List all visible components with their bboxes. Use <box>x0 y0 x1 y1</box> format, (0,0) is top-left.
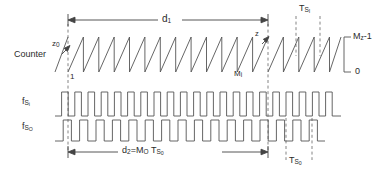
fso-row-label: fSO <box>22 122 33 133</box>
dimension-d2 <box>68 146 268 158</box>
label-z0: z0 <box>52 40 60 49</box>
label-tsi: TSI <box>299 4 310 15</box>
label-one: 1 <box>70 73 74 81</box>
label-d2-expression: d2=MO TS0 <box>122 146 164 157</box>
counter-row-label: Counter <box>14 50 46 59</box>
label-d1: d1 <box>162 14 171 25</box>
counter-sawtooth-trace <box>55 37 341 72</box>
fsi-row-label: fSi <box>22 97 30 108</box>
label-z: z <box>255 30 259 38</box>
fsi-square-trace <box>55 92 341 116</box>
label-mi: Mi <box>234 70 242 79</box>
fso-square-trace <box>55 120 325 141</box>
diagram-canvas <box>0 0 373 174</box>
label-tso: TS0 <box>289 156 302 167</box>
label-mz-minus-1: Mz-1 <box>353 32 372 42</box>
counter-axis-bracket <box>344 37 351 72</box>
label-zero: 0 <box>355 67 360 76</box>
timing-diagram-figure: Counter fSi fSO z0 1 z Mi d1 d2=MO TS0 T… <box>0 0 373 174</box>
